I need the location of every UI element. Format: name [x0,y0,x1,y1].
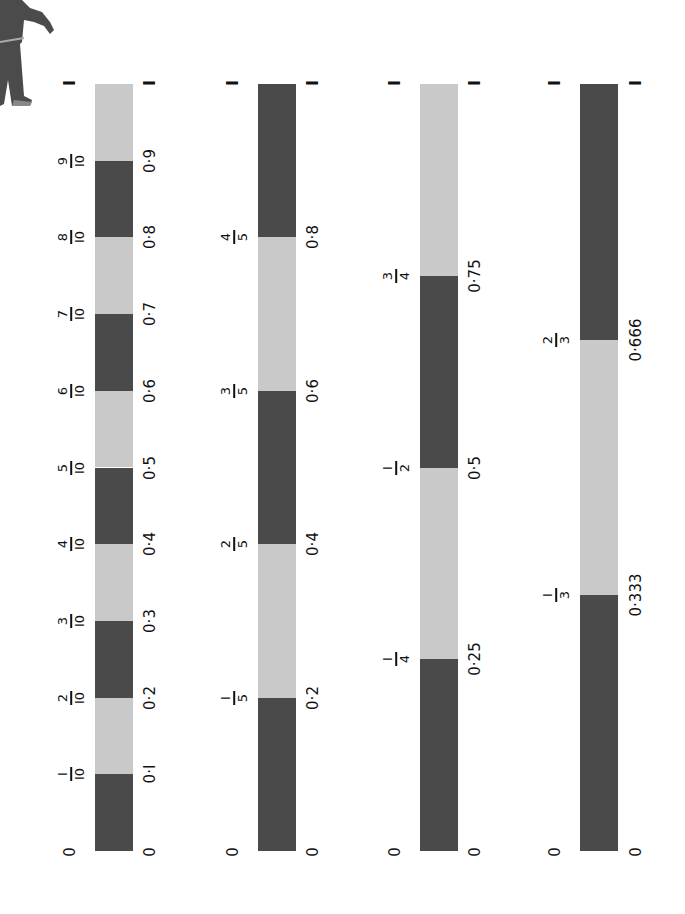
denominator: I0 [73,231,86,243]
decimal-label: 0·I [143,765,158,784]
start-label-fraction-side: 0 [388,847,403,857]
start-label-decimal-side: 0 [143,847,158,857]
fraction-label: 9I0 [54,154,86,168]
bar-segment [95,391,133,468]
bar-segment [580,340,618,596]
decimal-label: 0·7 [143,302,158,326]
decimal-label: 0·2 [143,686,158,710]
denominator: 2 [398,463,411,471]
fraction-label: 4I0 [54,537,86,551]
denominator: I0 [73,155,86,167]
decimal-label: 0·25 [468,643,483,676]
number-bar-fifths [258,84,296,851]
numerator: 8 [56,233,69,241]
start-label-fraction-side: 0 [548,847,563,857]
fraction-label: 6I0 [54,384,86,398]
end-label-decimal-side: I [306,80,321,86]
decimal-label: 0·4 [143,532,158,556]
denominator: I0 [73,385,86,397]
numerator: 3 [56,617,69,625]
decimal-label: 0·5 [143,456,158,480]
bar-segment [258,698,296,851]
decimal-label: 0·4 [306,532,321,556]
bar-segment [580,595,618,851]
bar-segment [258,84,296,237]
denominator: I0 [73,308,86,320]
end-label-fraction-side: I [548,80,563,86]
end-label-fraction-side: I [388,80,403,86]
bar-segment [95,468,133,545]
fraction-label: II0 [54,767,86,781]
denominator: 3 [558,336,571,344]
decimal-label: 0·3 [143,609,158,633]
bar-segment [95,621,133,698]
fraction-label: 35 [217,384,249,398]
decimal-label: 0·9 [143,149,158,173]
bar-segment [95,774,133,851]
denominator: 4 [398,272,411,280]
bar-segment [95,161,133,238]
numerator: 2 [219,540,232,548]
fraction-label: 8I0 [54,230,86,244]
start-label-decimal-side: 0 [468,847,483,857]
decimal-label: 0·8 [143,225,158,249]
numerator: 3 [219,387,232,395]
denominator: 5 [236,233,249,241]
fraction-label: 2I0 [54,691,86,705]
bar-segment [420,276,458,468]
end-label-decimal-side: I [629,80,644,86]
numerator: I [56,772,69,776]
numerator: I [381,657,394,661]
cartoon-figure-icon [0,0,60,110]
fraction-label: 34 [379,269,411,283]
end-label-fraction-side: I [226,80,241,86]
denominator: I0 [73,768,86,780]
bar-segment [420,84,458,276]
bar-segment [580,84,618,340]
bar-segment [258,237,296,390]
fraction-label: I4 [379,652,411,666]
fraction-label: 3I0 [54,614,86,628]
numerator: 4 [56,540,69,548]
number-bar-thirds [580,84,618,851]
end-label-decimal-side: I [468,80,483,86]
denominator: I0 [73,615,86,627]
numerator: I [541,593,554,597]
start-label-decimal-side: 0 [306,847,321,857]
fraction-label: 5I0 [54,461,86,475]
numerator: 2 [56,693,69,701]
denominator: 5 [236,540,249,548]
decimal-label: 0·75 [468,259,483,292]
decimal-label: 0·666 [629,318,644,361]
fraction-label: 7I0 [54,307,86,321]
end-label-fraction-side: I [63,80,78,86]
numerator: 2 [541,336,554,344]
denominator: 5 [236,387,249,395]
bar-segment [95,237,133,314]
bar-segment [95,698,133,775]
bar-segment [95,84,133,161]
fraction-label: I3 [539,588,571,602]
numerator: 9 [56,157,69,165]
denominator: 5 [236,693,249,701]
decimal-label: 0·8 [306,225,321,249]
denominator: 4 [398,655,411,663]
numerator: 7 [56,310,69,318]
fraction-label: 45 [217,230,249,244]
numerator: 6 [56,387,69,395]
decimal-label: 0·333 [629,574,644,617]
start-label-decimal-side: 0 [629,847,644,857]
decimal-label: 0·5 [468,456,483,480]
fraction-label: I5 [217,691,249,705]
denominator: I0 [73,461,86,473]
start-label-fraction-side: 0 [226,847,241,857]
denominator: 3 [558,591,571,599]
numerator: I [381,466,394,470]
start-label-fraction-side: 0 [63,847,78,857]
end-label-decimal-side: I [143,80,158,86]
numerator: 5 [56,463,69,471]
bar-segment [95,314,133,391]
denominator: I0 [73,538,86,550]
decimal-label: 0·6 [306,379,321,403]
decimal-label: 0·6 [143,379,158,403]
